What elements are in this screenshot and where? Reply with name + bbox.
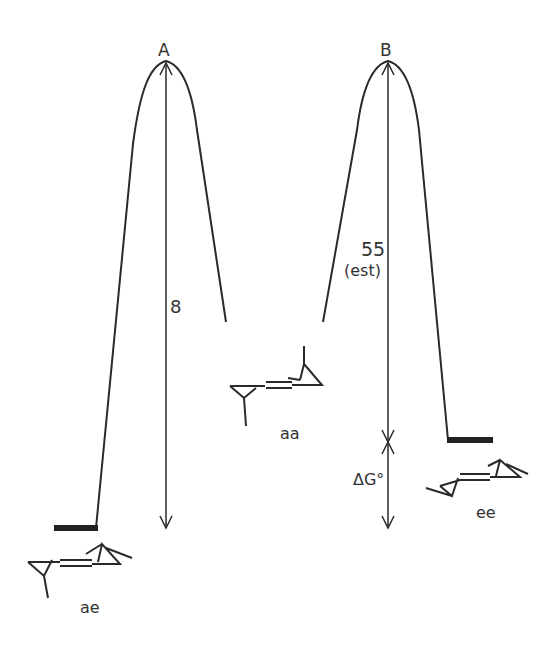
ae-energy-level [54, 525, 98, 531]
transition-state-a-label: A [158, 40, 170, 60]
barrier-a-curve [96, 61, 226, 528]
barrier-a-value: 8 [170, 296, 181, 317]
aa-molecule [230, 346, 322, 426]
conformer-aa-label: aa [280, 424, 300, 443]
conformer-ae-label: ae [80, 598, 100, 617]
ee-energy-level [447, 437, 493, 443]
transition-state-b-label: B [380, 40, 392, 60]
barrier-b-value: 55 [361, 238, 385, 260]
barrier-b-curve [323, 61, 448, 440]
conformer-ee-label: ee [476, 503, 496, 522]
energy-diagram-canvas [0, 0, 558, 646]
ee-molecule [426, 460, 528, 496]
barrier-b-note: (est) [344, 261, 381, 280]
delta-g-label: ΔG° [353, 470, 384, 489]
ae-molecule [28, 544, 132, 598]
